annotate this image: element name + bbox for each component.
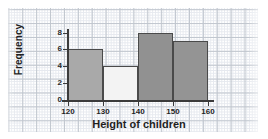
plot-area: 0 2 4 6 8 120 130 140 150 160 Frequency …	[0, 0, 268, 139]
x-tick-label: 160	[196, 107, 220, 116]
y-tick-label: 6	[52, 45, 62, 53]
x-tick-mark	[103, 101, 104, 106]
x-tick-label: 150	[161, 107, 185, 116]
y-tick-label: 8	[52, 29, 62, 37]
y-tick-mark	[63, 49, 68, 50]
x-tick-label: 130	[91, 107, 115, 116]
y-axis-label: Frequency	[13, 14, 24, 86]
x-tick-mark	[173, 101, 174, 106]
x-tick-label: 120	[56, 107, 80, 116]
y-tick-mark	[63, 83, 68, 84]
histogram-bar	[68, 49, 103, 101]
x-tick-mark	[138, 101, 139, 106]
histogram-bar	[173, 41, 208, 101]
x-axis-label: Height of children	[64, 118, 214, 130]
x-tick-mark	[68, 101, 69, 106]
y-tick-label: 2	[52, 79, 62, 87]
y-tick-mark	[63, 33, 68, 34]
y-tick-label: 4	[52, 62, 62, 70]
y-tick-label: 0	[52, 96, 62, 104]
y-tick-mark	[63, 66, 68, 67]
histogram-bar	[138, 33, 173, 102]
histogram-bar	[103, 66, 138, 101]
x-tick-label: 140	[126, 107, 150, 116]
x-tick-mark	[208, 101, 209, 106]
y-axis-line	[67, 29, 69, 101]
histogram-figure: 0 2 4 6 8 120 130 140 150 160 Frequency …	[0, 0, 268, 139]
